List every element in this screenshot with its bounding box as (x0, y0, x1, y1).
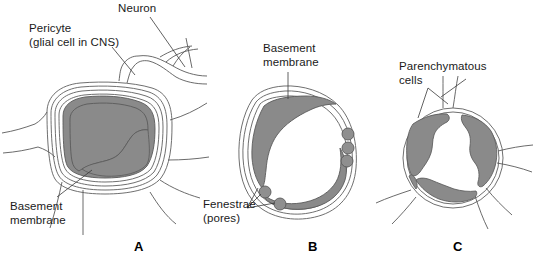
fenestra-pore (342, 128, 354, 140)
panel-c-endothelial-segment-bottom (416, 178, 477, 202)
panel-c-endothelial-segment-upper-left (407, 114, 450, 176)
label-fenestrae: Fenestrae (pores) (203, 198, 256, 225)
label-neuron: Neuron (118, 2, 156, 16)
leader-pericyte (112, 47, 135, 75)
panel-c-graphic (376, 76, 533, 229)
leader-parenchyma-1 (428, 88, 448, 104)
panel-a-pericyte-body-2 (127, 61, 149, 83)
leader-parenchyma-2 (418, 88, 428, 118)
capillary-types-figure: Pericyte (glial cell in CNS) Neuron Base… (0, 0, 541, 266)
panel-b-endothelium-upper (252, 96, 336, 188)
panel-b-fenestrae-left (259, 186, 286, 210)
panel-b-fenestrae-right (341, 128, 354, 167)
label-basement-membrane-b: Basement membrane (263, 42, 319, 69)
panel-c-tissue-outlines (376, 76, 533, 229)
fenestra-pore (342, 142, 354, 154)
panel-letter-b: B (308, 239, 318, 254)
panel-c-endothelial-segment-left (409, 175, 417, 189)
fenestra-pore (259, 186, 271, 198)
fenestra-pore (274, 198, 286, 210)
label-parenchymatous-cells: Parenchymatous cells (399, 60, 487, 87)
leader-neuron (150, 17, 185, 67)
label-pericyte: Pericyte (glial cell in CNS) (29, 22, 119, 49)
panel-b-endothelium-lower (260, 148, 346, 209)
panel-letter-a: A (134, 239, 144, 254)
label-basement-membrane-a: Basement membrane (10, 200, 66, 227)
panel-letter-c: C (453, 239, 463, 254)
panel-b-graphic (239, 72, 357, 219)
fenestra-pore (341, 155, 353, 167)
